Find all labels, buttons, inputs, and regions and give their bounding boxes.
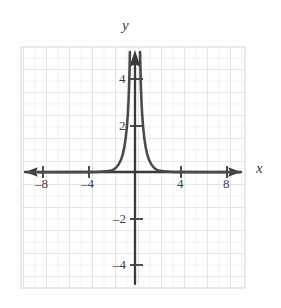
x-tick-label-pos8: 8 [223,176,230,192]
grid-major [21,47,245,288]
x-axis-label: x [256,160,263,177]
y-tick-label-neg4: –4 [113,257,126,273]
graph-figure: y x –8 –4 4 8 4 2 –2 –4 [0,0,281,308]
y-tick-label-pos2: 2 [119,118,126,134]
y-axis-label: y [122,17,129,34]
coordinate-plane [0,0,281,308]
y-tick-label-pos4: 4 [119,71,126,87]
x-tick-label-neg4: –4 [81,176,94,192]
y-tick-label-neg2: –2 [113,211,126,227]
x-tick-label-pos4: 4 [177,176,184,192]
x-tick-label-neg8: –8 [35,176,48,192]
